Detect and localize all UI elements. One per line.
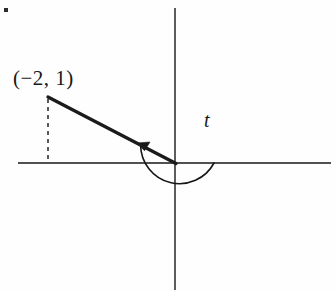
figure-canvas	[0, 0, 336, 290]
angle-variable-label: t	[204, 110, 210, 130]
point-coordinate-label: (−2, 1)	[13, 68, 74, 89]
terminal-side-ray	[48, 97, 176, 164]
trig-angle-figure: (−2, 1) t	[0, 0, 336, 290]
